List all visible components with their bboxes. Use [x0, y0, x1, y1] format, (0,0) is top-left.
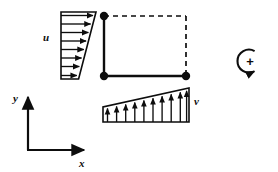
mechanics-diagram: u: [0, 0, 278, 172]
v-profile-group: v: [103, 88, 199, 122]
x-axis-label: x: [78, 157, 85, 169]
v-profile-arrows: [108, 91, 187, 122]
rotation-plus-sign: +: [246, 54, 254, 69]
diagram-canvas: u: [0, 0, 278, 172]
y-axis-label: y: [11, 92, 18, 104]
element-group: [100, 12, 190, 80]
u-profile-outline: [61, 12, 96, 79]
positive-rotation-symbol-group: +: [237, 50, 254, 73]
element-node-top-left: [100, 12, 108, 20]
u-profile-arrows: [61, 16, 93, 76]
v-profile-outline: [103, 88, 189, 122]
v-profile-label: v: [194, 95, 199, 107]
coordinate-axes-group: y x: [11, 92, 85, 169]
element-node-bottom-left: [100, 72, 108, 80]
u-profile-group: u: [43, 12, 96, 79]
element-node-bottom-right: [182, 72, 190, 80]
u-profile-label: u: [43, 31, 49, 43]
